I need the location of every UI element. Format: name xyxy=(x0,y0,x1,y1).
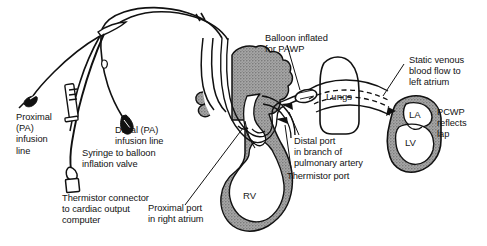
label-pcwp: PCWP reflects lap xyxy=(437,107,467,141)
balloon-inflation-line xyxy=(73,36,100,112)
structure-label-lv: LV xyxy=(405,137,416,148)
distal-line xyxy=(101,36,122,116)
structure-label-rv: RV xyxy=(243,190,256,201)
left-heart-illustration xyxy=(386,96,441,172)
label-static-venous-flow: Static venous blood flow to left atrium xyxy=(409,55,464,89)
proximal-line-tip xyxy=(19,94,38,108)
svc-wall-right xyxy=(212,38,226,112)
catheter-hub xyxy=(98,22,126,36)
balloon-inflated xyxy=(294,87,318,104)
label-syringe-inflation-valve: Syringe to balloon inflation valve xyxy=(82,148,156,170)
main-shaft-inner xyxy=(104,12,228,40)
structure-label-lungs: Lungs xyxy=(326,91,352,102)
pa-catheter-diagram: Proximal (PA) infusion line Distal (PA) … xyxy=(0,0,487,246)
structure-label-la: LA xyxy=(409,109,421,120)
label-thermistor-port: Thermistor port xyxy=(287,171,349,182)
leader-static-venous xyxy=(383,64,404,96)
label-proximal-port: Proximal port in right atrium xyxy=(148,203,204,225)
heart-illustration xyxy=(196,38,295,231)
label-balloon-inflated: Balloon inflated for PAWP xyxy=(265,33,328,55)
label-proximal-infusion-line: Proximal (PA) infusion line xyxy=(16,112,52,157)
label-distal-port: Distal port in branch of pulmonary arter… xyxy=(294,136,363,170)
thermistor-connector-icon xyxy=(65,167,79,192)
vessel-stump-lower xyxy=(198,104,210,117)
label-thermistor-connector: Thermistor connector to cardiac output c… xyxy=(62,193,149,227)
line-collar xyxy=(102,60,108,68)
vessel-stump-upper xyxy=(196,92,205,105)
label-distal-infusion-line: Distal (PA) infusion line xyxy=(115,125,163,147)
